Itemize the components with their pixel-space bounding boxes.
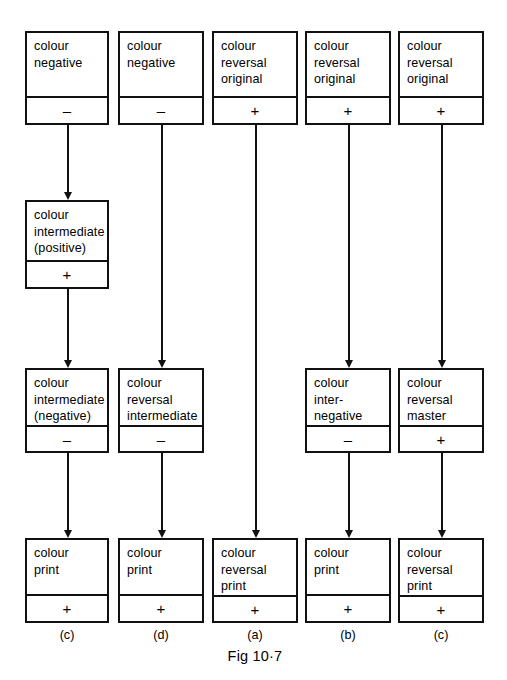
node-title: colour print: [120, 540, 202, 594]
node-title: colour intermediate (positive): [27, 202, 107, 260]
node-colour-internegative[interactable]: colour inter- negative–: [305, 368, 391, 453]
node-colour-print-2[interactable]: colour print+: [118, 538, 204, 623]
node-colour-intermediate-positive[interactable]: colour intermediate (positive)+: [25, 200, 109, 289]
node-polarity-sign: +: [307, 594, 389, 621]
node-colour-reversal-original-1[interactable]: colour reversal original+: [212, 31, 298, 125]
node-title: colour reversal original: [307, 33, 389, 96]
node-polarity-sign: –: [120, 96, 202, 123]
node-colour-reversal-original-3[interactable]: colour reversal original+: [398, 31, 484, 125]
node-polarity-sign: –: [307, 425, 389, 452]
node-title: colour reversal original: [214, 33, 296, 96]
node-polarity-sign: +: [27, 260, 107, 287]
node-title: colour reversal original: [400, 33, 482, 96]
node-polarity-sign: +: [214, 595, 296, 622]
arrow-line: [255, 125, 257, 531]
node-title: colour reversal intermediate: [120, 370, 202, 425]
node-title: colour reversal print: [214, 540, 296, 595]
arrow-line: [441, 453, 443, 531]
arrow-col1-row3-to-row4: [67, 453, 69, 538]
node-colour-negative-2[interactable]: colour negative–: [118, 31, 204, 125]
arrowhead-icon: [158, 530, 166, 538]
arrowhead-icon: [252, 530, 260, 538]
arrowhead-icon: [158, 360, 166, 368]
arrow-line: [67, 289, 69, 361]
arrow-line: [67, 453, 69, 531]
node-title: colour reversal print: [400, 540, 482, 595]
arrow-col4-row1-to-row3: [348, 125, 350, 368]
arrow-col3-row1-to-row4: [255, 125, 257, 538]
arrow-line: [348, 125, 350, 361]
column-label-2: (d): [118, 628, 204, 642]
arrow-col1-row2-to-row3: [67, 289, 69, 368]
node-polarity-sign: +: [400, 595, 482, 622]
arrowhead-icon: [345, 360, 353, 368]
arrow-line: [161, 125, 163, 361]
arrowhead-icon: [64, 360, 72, 368]
node-title: colour inter- negative: [307, 370, 389, 425]
node-colour-intermediate-negative[interactable]: colour intermediate (negative)–: [25, 368, 109, 453]
node-polarity-sign: +: [400, 425, 482, 452]
node-colour-reversal-master[interactable]: colour reversal master+: [398, 368, 484, 453]
arrowhead-icon: [438, 360, 446, 368]
node-polarity-sign: –: [27, 425, 107, 452]
node-title: colour negative: [27, 33, 107, 96]
column-label-1: (c): [25, 628, 109, 642]
arrowhead-icon: [438, 530, 446, 538]
node-polarity-sign: –: [120, 425, 202, 452]
arrow-line: [441, 125, 443, 361]
arrow-line: [67, 125, 69, 193]
arrow-col5-row3-to-row4: [441, 453, 443, 538]
node-polarity-sign: +: [27, 594, 107, 621]
node-colour-reversal-print-1[interactable]: colour reversal print+: [212, 538, 298, 623]
node-colour-reversal-original-2[interactable]: colour reversal original+: [305, 31, 391, 125]
arrowhead-icon: [345, 530, 353, 538]
arrowhead-icon: [64, 192, 72, 200]
column-label-4: (b): [305, 628, 391, 642]
column-label-3: (a): [212, 628, 298, 642]
arrow-col5-row1-to-row3: [441, 125, 443, 368]
column-label-5: (c): [398, 628, 484, 642]
arrow-col2-row3-to-row4: [161, 453, 163, 538]
arrow-col1-row1-to-row2: [67, 125, 69, 200]
arrowhead-icon: [64, 530, 72, 538]
node-title: colour intermediate (negative): [27, 370, 107, 425]
node-polarity-sign: +: [120, 594, 202, 621]
node-title: colour reversal master: [400, 370, 482, 425]
node-colour-negative-1[interactable]: colour negative–: [25, 31, 109, 125]
node-polarity-sign: –: [27, 96, 107, 123]
node-polarity-sign: +: [214, 96, 296, 123]
node-colour-print-3[interactable]: colour print+: [305, 538, 391, 623]
node-title: colour print: [27, 540, 107, 594]
arrow-line: [348, 453, 350, 531]
node-title: colour print: [307, 540, 389, 594]
node-colour-reversal-print-2[interactable]: colour reversal print+: [398, 538, 484, 623]
node-title: colour negative: [120, 33, 202, 96]
figure-caption: Fig 10·7: [212, 648, 298, 664]
node-polarity-sign: +: [400, 96, 482, 123]
node-polarity-sign: +: [307, 96, 389, 123]
figure-flowchart: colour negative–colour negative–colour r…: [0, 0, 507, 680]
arrow-col2-row1-to-row3: [161, 125, 163, 368]
arrow-line: [161, 453, 163, 531]
arrow-col4-row3-to-row4: [348, 453, 350, 538]
node-colour-print-1[interactable]: colour print+: [25, 538, 109, 623]
node-colour-reversal-intermediate[interactable]: colour reversal intermediate–: [118, 368, 204, 453]
